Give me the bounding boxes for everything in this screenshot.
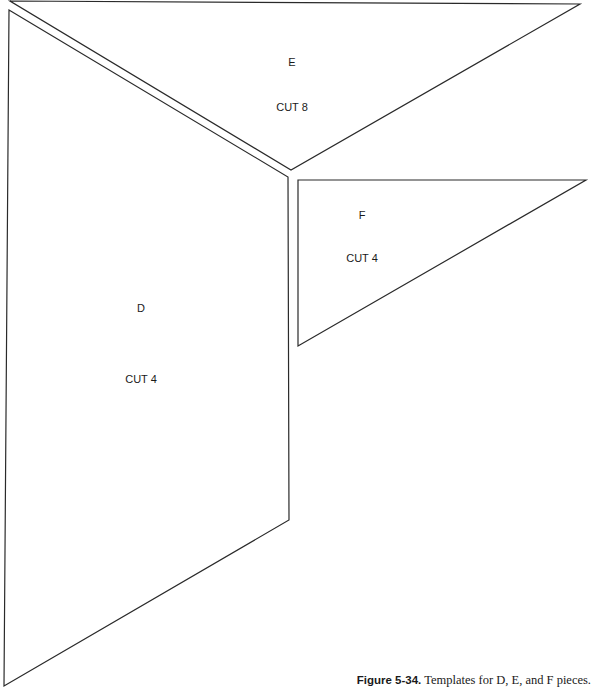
template-figure: E CUT 8 D CUT 4 F CUT 4 Figure 5-34. Tem…: [0, 0, 593, 691]
piece-d-letter: D: [137, 302, 145, 314]
figure-caption: Figure 5-34. Templates for D, E, and F p…: [357, 673, 591, 688]
template-piece-d-outline: [4, 10, 289, 686]
piece-e-letter: E: [288, 56, 295, 68]
piece-e-cut-instruction: CUT 8: [276, 101, 308, 113]
template-piece-f-outline: [298, 180, 586, 346]
figure-number: Figure 5-34.: [357, 674, 422, 686]
figure-caption-text: Templates for D, E, and F pieces.: [421, 673, 591, 687]
piece-f-cut-instruction: CUT 4: [346, 252, 378, 264]
template-piece-e-outline: [10, 1, 580, 170]
piece-d-cut-instruction: CUT 4: [125, 373, 157, 385]
piece-f-letter: F: [359, 209, 366, 221]
